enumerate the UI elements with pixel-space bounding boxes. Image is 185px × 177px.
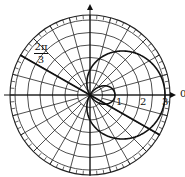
axis-label-zero: 0: [180, 89, 185, 99]
radial-label-2: 2: [140, 97, 146, 107]
angle-label-denominator: 3: [38, 54, 44, 65]
radial-label-1: 1: [116, 97, 122, 107]
angle-label-numerator: 2π: [35, 41, 48, 52]
y-axis-arrow-icon: [87, 4, 93, 10]
x-axis-arrow-icon: [170, 92, 176, 98]
radial-label-3: 3: [162, 97, 168, 107]
polar-grid: [0, 0, 185, 177]
angle-label-2pi-3: 2π 3: [34, 42, 48, 65]
